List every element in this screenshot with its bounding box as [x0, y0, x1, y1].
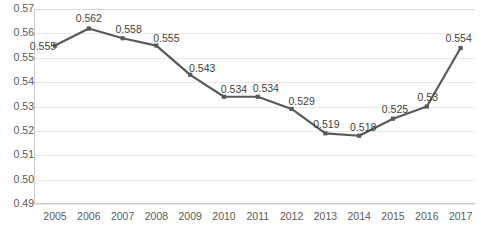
- data-label-2013: 0.519: [306, 118, 346, 130]
- y-tick-0.55: 0.55: [0, 52, 34, 63]
- y-tick-label: 0.52: [4, 125, 34, 136]
- data-label-2005: 0.555: [23, 40, 63, 52]
- data-label-2009: 0.543: [182, 62, 222, 74]
- data-point-marker-2011: [256, 95, 260, 99]
- y-tick-0.50: 0.50: [0, 174, 34, 185]
- data-point-marker-2010: [222, 95, 226, 99]
- y-tick-0.57: 0.57: [0, 3, 34, 14]
- y-tick-0.56: 0.56: [0, 27, 34, 38]
- y-tick-0.51: 0.51: [0, 149, 34, 160]
- data-point-marker-2012: [290, 107, 294, 111]
- data-point-marker-2006: [87, 26, 91, 30]
- data-label-2011: 0.534: [246, 82, 286, 94]
- y-tick-label: 0.54: [4, 76, 34, 87]
- y-tick-0.54: 0.54: [0, 76, 34, 87]
- y-tick-label: 0.55: [4, 52, 34, 63]
- data-point-marker-2015: [391, 117, 395, 121]
- data-point-marker-2017: [459, 46, 463, 50]
- y-tick-label: 0.57: [4, 3, 34, 14]
- y-tick-label: 0.51: [4, 149, 34, 160]
- data-point-marker-2013: [323, 131, 327, 135]
- data-label-2008: 0.555: [146, 32, 186, 44]
- y-tick-label: 0.50: [4, 174, 34, 185]
- data-point-marker-2014: [357, 134, 361, 138]
- y-tick-0.52: 0.52: [0, 125, 34, 136]
- y-tick-label: 0.56: [4, 27, 34, 38]
- data-point-marker-2007: [121, 36, 125, 40]
- data-label-2006: 0.562: [69, 12, 109, 24]
- line-chart: 0.490.500.510.520.530.540.550.560.57 200…: [0, 0, 481, 233]
- data-label-2017: 0.554: [439, 32, 479, 44]
- data-point-marker-2016: [425, 104, 429, 108]
- y-tick-label: 0.53: [4, 101, 34, 112]
- data-label-2015: 0.525: [375, 103, 415, 115]
- data-label-2014: 0.518: [343, 121, 383, 133]
- y-tick-0.53: 0.53: [0, 101, 34, 112]
- y-tick-0.49: 0.49: [0, 198, 34, 209]
- y-tick-label: 0.49: [4, 198, 34, 209]
- gridline-0.49: [34, 204, 475, 205]
- data-label-2012: 0.529: [282, 95, 322, 107]
- x-tick-2017: 2017: [441, 210, 481, 222]
- data-label-2007: 0.558: [109, 23, 149, 35]
- data-point-marker-2008: [154, 43, 158, 47]
- data-label-2016: 0.53: [408, 91, 448, 103]
